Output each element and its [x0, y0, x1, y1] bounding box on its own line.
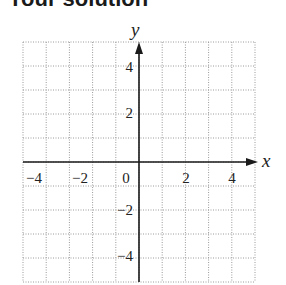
y-axis-arrow-icon [135, 42, 143, 54]
y-tick-label: −2 [117, 202, 133, 218]
x-tick-label: −4 [26, 170, 42, 186]
coordinate-grid: x y −4 −2 0 2 4 4 2 −2 −4 [0, 0, 286, 285]
y-tick-label: 2 [126, 105, 134, 121]
y-tick-label: 4 [126, 59, 134, 75]
x-axis-arrow-icon [246, 158, 258, 166]
x-tick-label: −2 [72, 170, 88, 186]
x-tick-label: 0 [122, 170, 130, 186]
x-tick-label: 4 [228, 170, 236, 186]
y-axis-label: y [129, 19, 140, 40]
y-tick-label: −4 [117, 248, 133, 264]
x-axis-label: x [261, 150, 271, 171]
x-tick-label: 2 [182, 170, 190, 186]
